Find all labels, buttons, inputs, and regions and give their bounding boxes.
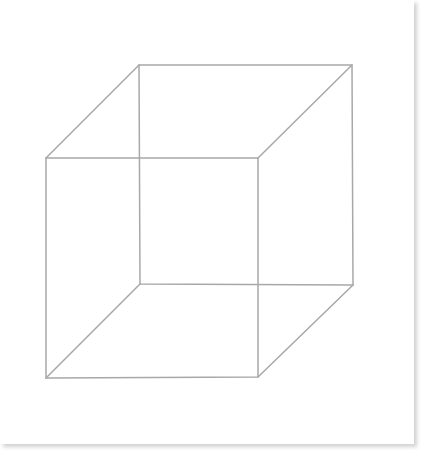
- edge-bottom-left: [46, 284, 140, 378]
- necker-cube-diagram: [0, 0, 439, 473]
- canvas: [0, 0, 439, 473]
- back-face: [139, 65, 353, 285]
- edge-top-left: [46, 65, 139, 158]
- front-face: [46, 158, 258, 378]
- edge-bottom-right: [258, 285, 353, 377]
- edge-top-right: [258, 65, 352, 158]
